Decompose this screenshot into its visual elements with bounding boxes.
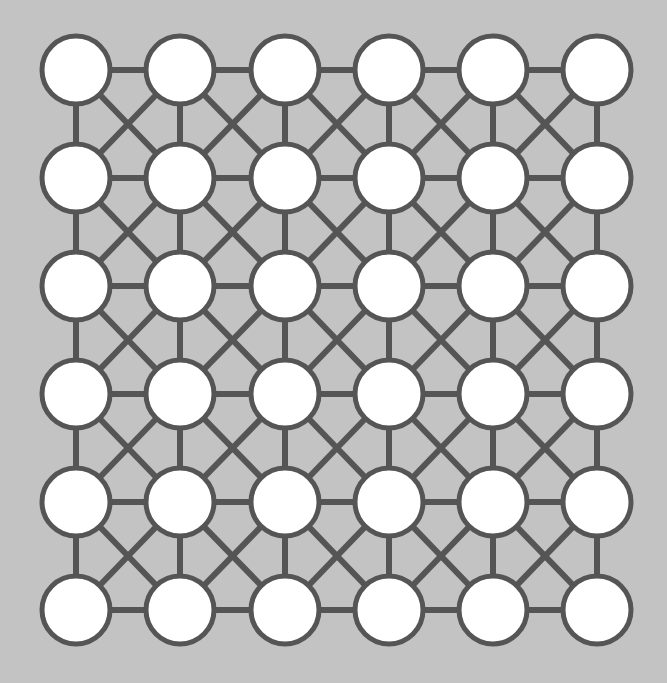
graph-node	[251, 36, 319, 104]
graph-node	[251, 360, 319, 428]
graph-node	[459, 360, 527, 428]
graph-node	[42, 36, 110, 104]
graph-node	[355, 360, 423, 428]
graph-node	[563, 468, 631, 536]
graph-node	[251, 576, 319, 644]
graph-node	[459, 576, 527, 644]
graph-node	[42, 360, 110, 428]
graph-node	[42, 576, 110, 644]
graph-node	[355, 36, 423, 104]
graph-node	[146, 360, 214, 428]
graph-lattice-figure	[0, 0, 667, 683]
graph-node	[459, 36, 527, 104]
graph-node	[355, 576, 423, 644]
graph-node	[459, 252, 527, 320]
graph-node	[459, 468, 527, 536]
graph-node	[459, 144, 527, 212]
graph-node	[42, 144, 110, 212]
graph-node	[355, 144, 423, 212]
graph-node	[563, 144, 631, 212]
graph-node	[146, 36, 214, 104]
graph-node	[563, 252, 631, 320]
graph-node	[146, 468, 214, 536]
graph-node	[251, 468, 319, 536]
graph-node	[146, 252, 214, 320]
graph-node	[146, 144, 214, 212]
graph-node	[563, 36, 631, 104]
graph-node	[251, 144, 319, 212]
graph-node	[355, 468, 423, 536]
graph-node	[563, 360, 631, 428]
graph-node	[251, 252, 319, 320]
graph-node	[146, 576, 214, 644]
graph-node	[563, 576, 631, 644]
graph-node	[355, 252, 423, 320]
graph-node	[42, 252, 110, 320]
graph-node	[42, 468, 110, 536]
